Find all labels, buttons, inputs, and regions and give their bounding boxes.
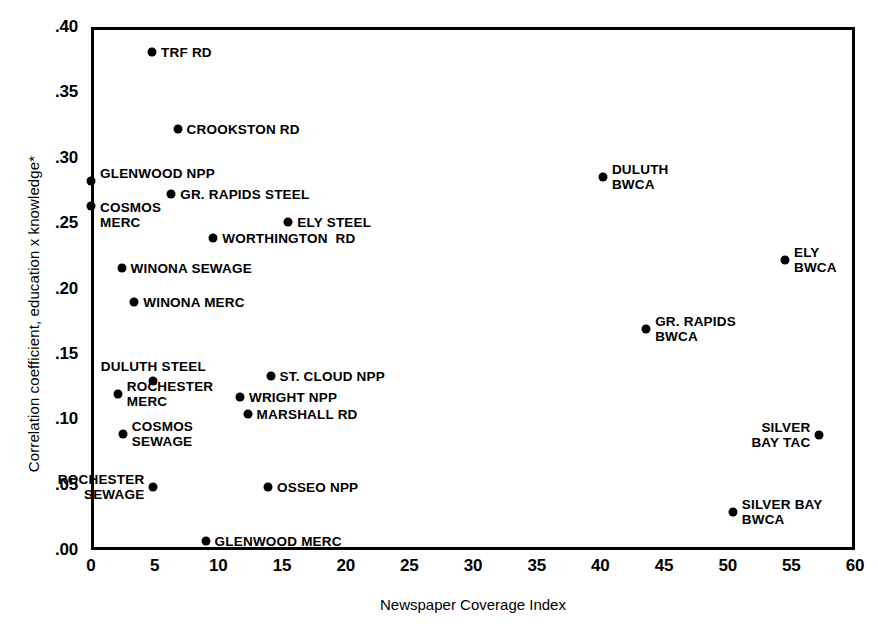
x-tick-30: 30 [464,556,483,576]
x-tick-35: 35 [527,556,546,576]
y-tick-30: .30 [55,148,78,168]
point-label: ELY STEEL [297,214,371,229]
y-axis-title: Correlation coefficient, education x kno… [22,0,44,628]
data-point [263,483,272,492]
x-tick-5: 5 [150,556,159,576]
x-tick-50: 50 [718,556,737,576]
data-point [728,508,737,517]
point-label: GR. RAPIDS STEEL [180,187,309,202]
data-point [167,190,176,199]
point-label: ST. CLOUD NPP [280,369,385,384]
y-tick-20: .20 [55,279,78,299]
point-label: OSSEO NPP [277,480,358,495]
x-tick-25: 25 [400,556,419,576]
point-label: SILVER BAY BWCA [742,497,823,527]
x-tick-55: 55 [782,556,801,576]
data-point [87,177,96,186]
y-tick-15: .15 [55,344,78,364]
point-label: CROOKSTON RD [187,121,300,136]
data-point [173,124,182,133]
x-axis-title: Newspaper Coverage Index [91,596,855,613]
data-point [130,297,139,306]
x-tick-45: 45 [655,556,674,576]
point-label: GLENWOOD NPP [100,166,215,181]
data-point [201,536,210,545]
point-label: SILVER BAY TAC [751,420,810,450]
data-point [642,325,651,334]
data-point [598,173,607,182]
point-label: DULUTH BWCA [612,162,669,192]
y-tick-10: .10 [55,409,78,429]
point-label: ROCHESTER MERC [127,379,214,409]
point-label: DULUTH STEEL [101,359,206,374]
data-point [780,255,789,264]
point-label: WINONA SEWAGE [131,260,252,275]
point-label: COSMOS MERC [100,200,161,230]
x-tick-40: 40 [591,556,610,576]
x-tick-20: 20 [336,556,355,576]
point-label: WRIGHT NPP [249,390,337,405]
point-label: ELY BWCA [794,245,837,275]
data-point [284,217,293,226]
y-tick-00: .00 [55,540,78,560]
x-tick-60: 60 [846,556,865,576]
point-label: MARSHALL RD [257,407,358,422]
data-point [117,263,126,272]
scatter-plot-figure: Correlation coefficient, education x kno… [0,0,878,628]
point-label: GR. RAPIDS BWCA [655,314,736,344]
data-point [266,372,275,381]
data-point [243,410,252,419]
x-tick-10: 10 [209,556,228,576]
plot-area [91,27,855,550]
data-point [87,202,96,211]
data-point [209,233,218,242]
data-point [148,47,157,56]
y-tick-25: .25 [55,213,78,233]
x-tick-0: 0 [86,556,95,576]
data-point [113,390,122,399]
point-label: WORTHINGTON RD [222,230,355,245]
data-point [118,429,127,438]
y-tick-40: .40 [55,17,78,37]
point-label: GLENWOOD MERC [215,533,342,548]
point-label: WINONA MERC [143,294,244,309]
data-point [815,430,824,439]
data-point [149,483,158,492]
point-label: COSMOS SEWAGE [132,419,193,449]
data-point [235,393,244,402]
point-label: TRF RD [161,44,212,59]
x-tick-15: 15 [273,556,292,576]
point-label: ROCHESTER SEWAGE [58,472,145,502]
y-tick-35: .35 [55,82,78,102]
